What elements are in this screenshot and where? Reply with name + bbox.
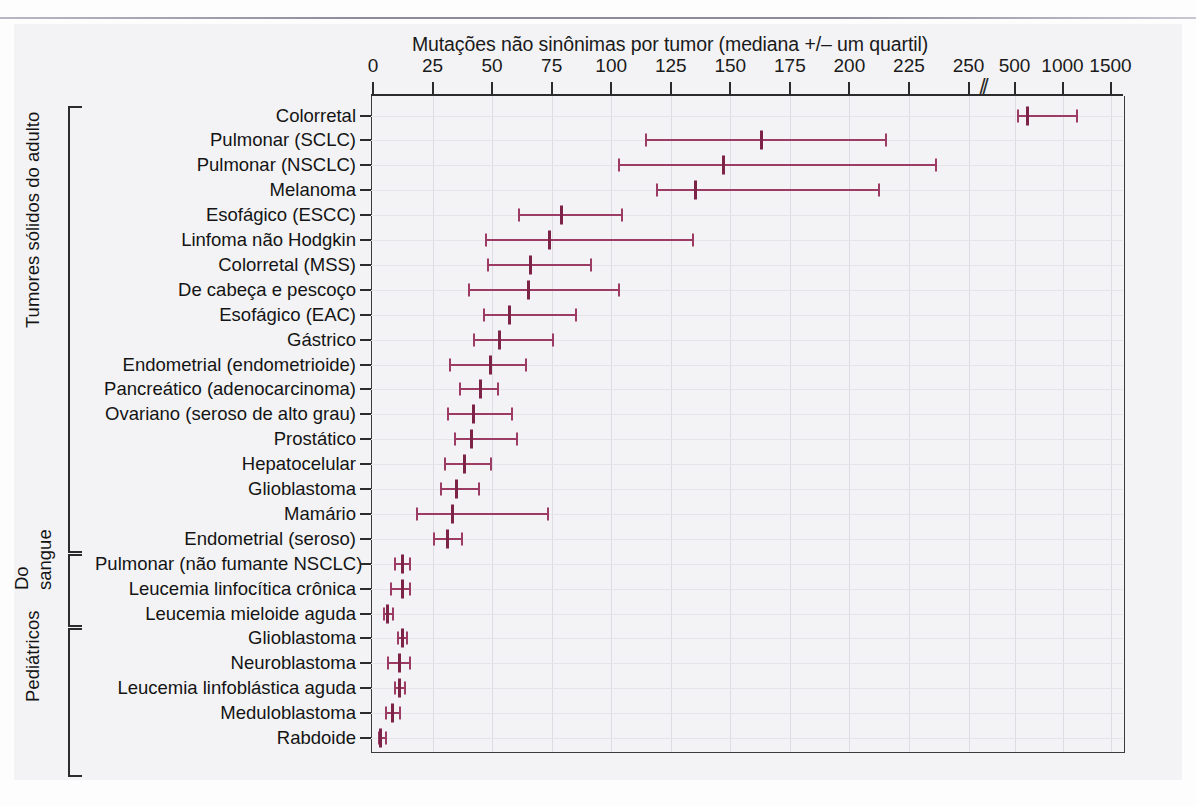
upper-quartile-cap [575,308,577,321]
lower-quartile-cap [433,532,435,545]
row-tick-mark [360,438,371,440]
median-marker [498,330,501,349]
gridline-horizontal [371,215,1123,216]
row-tick-mark [360,214,371,216]
row-tick-mark [360,115,371,117]
quartile-range-bar [459,388,497,390]
row-label: Gástrico [95,329,356,351]
gridline-horizontal [371,265,1123,266]
upper-quartile-cap [409,557,411,570]
median-marker [463,455,466,474]
row-label: De cabeça e pescoço [95,279,356,301]
upper-quartile-cap [392,607,394,620]
row-label: Ovariano (seroso de alto grau) [95,403,356,425]
upper-quartile-cap [590,258,592,271]
upper-quartile-cap [516,433,518,446]
row-tick-mark [360,637,371,639]
upper-quartile-cap [385,732,387,745]
row-label: Rabdoide [95,727,356,749]
quartile-range-bar [440,488,478,490]
row-tick-mark [360,588,371,590]
gridline-vertical [849,96,850,752]
row-label: Glioblastoma [95,627,356,649]
median-marker [508,305,511,324]
upper-quartile-cap [935,159,937,172]
upper-quartile-cap [478,483,480,496]
median-marker [694,181,697,200]
row-tick-mark [360,264,371,266]
median-marker [548,231,551,250]
median-marker [446,529,449,548]
gridline-horizontal [371,240,1123,241]
group-bracket-1 [68,554,82,628]
row-tick-mark [360,662,371,664]
median-marker [379,729,382,748]
quartile-range-bar [416,513,547,515]
upper-quartile-cap [525,358,527,371]
lower-quartile-cap [385,707,387,720]
quartile-range-bar [447,413,511,415]
lower-quartile-cap [383,607,385,620]
row-label: Pulmonar (NSCLC) [95,154,356,176]
lower-quartile-cap [387,657,389,670]
upper-quartile-cap [1076,109,1078,122]
gridline-vertical [909,96,910,752]
row-tick-mark [360,563,371,565]
median-marker [398,654,401,673]
row-label: Esofágico (EAC) [95,304,356,326]
row-label: Meduloblastoma [95,702,356,724]
gridline-vertical [492,96,493,752]
median-marker [401,554,404,573]
row-tick-mark [360,613,371,615]
quartile-range-bar [483,314,576,316]
gridline-horizontal [371,688,1123,689]
figure-page: Mutações não sinônimas por tumor (median… [0,0,1196,806]
quartile-range-bar [618,164,935,166]
plot-frame [371,96,1125,753]
upper-quartile-cap [552,333,554,346]
row-tick-mark [360,513,371,515]
row-tick-mark [360,139,371,141]
lower-quartile-cap [645,134,647,147]
row-label: Neuroblastoma [95,652,356,674]
lower-quartile-cap [454,433,456,446]
group-bracket-0 [68,106,82,553]
lower-quartile-cap [444,458,446,471]
quartile-range-bar [485,239,692,241]
row-tick-mark [360,364,371,366]
median-marker [386,604,389,623]
row-label: Hepatocelular [95,453,356,475]
row-label: Prostático [95,428,356,450]
upper-quartile-cap [406,632,408,645]
upper-quartile-cap [692,234,694,247]
quartile-range-bar [449,364,525,366]
lower-quartile-cap [656,184,658,197]
row-tick-mark [360,712,371,714]
quartile-range-bar [444,463,489,465]
median-marker [470,430,473,449]
upper-quartile-cap [404,682,406,695]
row-label: Esofágico (ESCC) [95,204,356,226]
lower-quartile-cap [459,383,461,396]
row-label: Pulmonar (não fumante NSCLC) [95,553,356,575]
upper-quartile-cap [878,184,880,197]
row-tick-mark [360,413,371,415]
gridline-horizontal [371,489,1123,490]
gridline-vertical [730,96,731,752]
median-marker [527,280,530,299]
gridline-horizontal [371,638,1123,639]
row-tick-mark [360,388,371,390]
row-tick-mark [360,314,371,316]
lower-quartile-cap [618,159,620,172]
row-label: Glioblastoma [95,478,356,500]
lower-quartile-cap [485,234,487,247]
gridline-vertical [552,96,553,752]
row-label: Leucemia mieloide aguda [95,603,356,625]
gridline-vertical [1015,96,1016,752]
row-label: Colorretal [95,105,356,127]
upper-quartile-cap [511,408,513,421]
lower-quartile-cap [447,408,449,421]
lower-quartile-cap [397,632,399,645]
row-label: Pulmonar (SCLC) [95,129,356,151]
row-label: Linfoma não Hodgkin [95,229,356,251]
